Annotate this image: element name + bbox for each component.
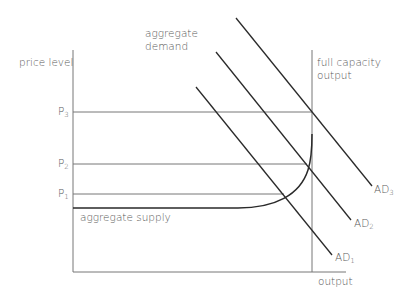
- full-capacity-label-line2: output: [317, 69, 381, 82]
- ad-group-label: aggregate demand: [145, 27, 198, 53]
- aggregate-supply-label: aggregate supply: [80, 211, 171, 224]
- ad-group-label-line1: aggregate: [145, 27, 198, 40]
- ad-group-label-line2: demand: [145, 40, 198, 53]
- ad1-label: AD1: [335, 251, 355, 268]
- full-capacity-label: full capacity output: [317, 56, 381, 82]
- p2-label: P2: [58, 157, 69, 174]
- aggregate-supply-curve: [73, 134, 312, 208]
- full-capacity-label-line1: full capacity: [317, 56, 381, 69]
- p1-label: P1: [58, 187, 69, 204]
- p3-label: P3: [58, 105, 69, 122]
- ad3-label: AD3: [374, 183, 394, 200]
- y-axis-label: price level: [19, 56, 73, 69]
- ad2-label: AD2: [354, 217, 374, 234]
- x-axis-label: output: [318, 275, 353, 288]
